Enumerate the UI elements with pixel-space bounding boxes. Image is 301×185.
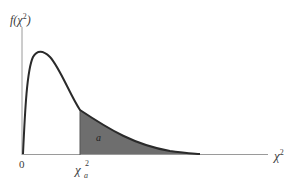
chi-square-plot (0, 0, 301, 185)
y-axis-label: f(χ2) (10, 13, 31, 28)
x-axis-label: χ2 (274, 148, 284, 164)
shaded-area-label: a (96, 132, 101, 143)
critical-value-label: χa2 (75, 162, 81, 178)
origin-label: 0 (19, 158, 25, 170)
